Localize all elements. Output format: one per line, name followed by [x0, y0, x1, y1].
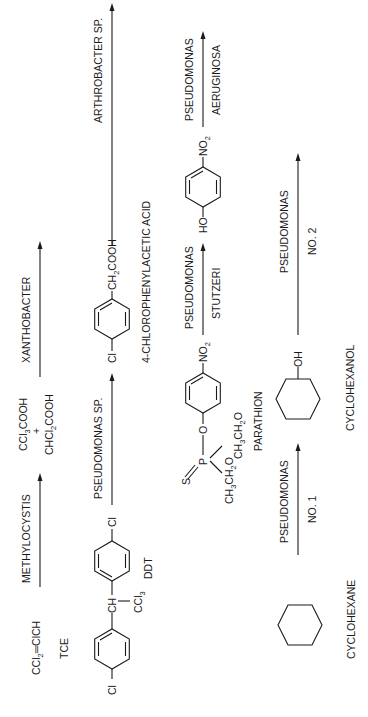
cyclohexanol-label: CYCLOHEXANOL [344, 344, 356, 431]
organism-pseudomonas-aeruginosa-2: AERUGINOSA [210, 45, 222, 115]
organism-pseudomonas-no1-1: PSEUDOMONAS [278, 460, 290, 543]
organism-pseudomonas-no2-1: PSEUDOMONAS [278, 190, 290, 273]
arrow-head-icon [201, 243, 206, 251]
dca-formula: CHCl2COOH [43, 394, 58, 455]
row-tce: CCl2═ClCH TCE METHYLOCYSTIS CCl3COOH + C… [17, 241, 70, 675]
organism-pseudomonas-no2-2: NO. 2 [306, 227, 318, 255]
arrow-head-icon [296, 153, 301, 161]
parathion-ethoxy-1: CH3CH2O [223, 457, 238, 504]
pathway-diagram: CCl2═ClCH TCE METHYLOCYSTIS CCl3COOH + C… [0, 0, 368, 717]
parathion-o: O [197, 426, 209, 434]
organism-pseudomonas-stutzeri-1: PSEUDOMONAS [183, 246, 195, 329]
parathion-ethoxy-2: CH3CH2O [232, 412, 247, 459]
organism-methylocystis: METHYLOCYSTIS [20, 494, 32, 583]
plus-sign: + [30, 428, 42, 434]
parathion-label: PARATHION [252, 391, 264, 451]
arrow-head-icon [296, 443, 301, 451]
cyclohexanol-ring [276, 379, 320, 419]
row-ddt: Cl CH CCl3 Cl DDT PSEUDOMONAS SP. Cl CH2… [92, 3, 154, 695]
arrow-head-icon [38, 241, 43, 249]
figure-rotated-stage: CCl2═ClCH TCE METHYLOCYSTIS CCl3COOH + C… [0, 0, 368, 717]
nitrophenol-ho: HO [197, 217, 209, 233]
arrow-head-icon [110, 373, 115, 381]
ddt-label: DDT [142, 557, 154, 579]
tce-label: TCE [58, 638, 70, 659]
nitrophenol-no2: NO2 [197, 136, 212, 156]
ddt-cl-right: Cl [106, 517, 118, 527]
nitrophenol-ring [186, 167, 221, 207]
tca-formula: CCl3COOH [17, 398, 32, 451]
parathion-p: P [197, 458, 209, 465]
cyclohexane-ring [278, 605, 322, 645]
ddt-ccl3: CCl3 [132, 591, 147, 613]
row-parathion: S P O CH3CH2O CH3CH2O NO2 PARATHION PSEU… [180, 31, 264, 504]
organism-pseudomonas-sp: PSEUDOMONAS SP. [92, 398, 104, 499]
organism-xanthobacter: XANTHOBACTER [20, 276, 32, 363]
arrow-head-icon [110, 3, 115, 11]
tce-formula: CCl2═ClCH [30, 621, 45, 675]
ddt-ring-right [95, 541, 130, 581]
cpa-ch2cooh: CH2COOH [106, 239, 121, 290]
parathion-s: S [180, 478, 192, 485]
organism-pseudomonas-no1-2: NO. 1 [306, 495, 318, 523]
row-cyclohexane: CYCLOHEXANE PSEUDOMONAS NO. 1 OH CYCLOHE… [276, 153, 357, 659]
ddt-ch: CH [106, 598, 118, 613]
organism-pseudomonas-stutzeri-2: STUTZERI [210, 268, 222, 319]
arrow-head-icon [38, 473, 43, 481]
organism-arthrobacter: ARTHROBACTER SP. [92, 18, 104, 123]
ddt-ring-left [95, 629, 130, 669]
cyclohexane-label: CYCLOHEXANE [345, 580, 357, 659]
cyclohexanol-oh: OH [292, 351, 304, 367]
cpa-cl: Cl [106, 353, 118, 363]
organism-pseudomonas-aeruginosa-1: PSEUDOMONAS [183, 38, 195, 121]
arrow-head-icon [201, 31, 206, 39]
parathion-ring [186, 373, 221, 413]
cpa-label: 4-CHLOROPHENYLACETIC ACID [140, 200, 152, 363]
ddt-cl-left: Cl [106, 685, 118, 695]
parathion-no2: NO2 [197, 342, 212, 362]
cpa-ring [95, 299, 130, 339]
